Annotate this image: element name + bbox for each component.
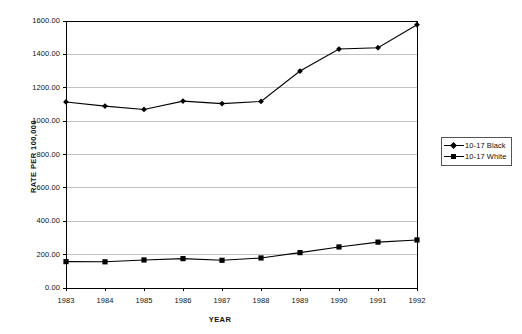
data-point-marker [219,258,224,263]
y-axis-title: RATE PER 100,000 [29,97,38,217]
data-point-marker [102,259,107,264]
data-point-marker [375,240,380,245]
data-series-layer [63,22,420,265]
y-tick-label: 1200.00 [8,83,60,92]
data-point-marker [375,45,381,51]
data-point-marker [414,237,419,242]
data-point-marker [63,259,68,264]
x-tick-label: 1987 [202,296,242,305]
y-tick-label: 200.00 [8,250,60,259]
x-tick-label: 1985 [124,296,164,305]
y-tick-label: 1600.00 [8,16,60,25]
axis-ticks [63,21,417,291]
series-line-2 [66,240,417,262]
x-tick-label: 1983 [46,296,86,305]
data-point-marker [141,107,147,113]
square-marker-icon [444,151,464,162]
x-tick-label: 1991 [358,296,398,305]
series-line-1 [66,25,417,110]
data-point-marker [336,46,342,52]
data-point-marker [414,22,420,28]
data-point-marker [297,250,302,255]
gridlines [66,21,417,288]
legend-label-black: 10-17 Black [464,141,506,150]
plot-area [0,0,522,334]
y-tick-label: 400.00 [8,216,60,225]
x-axis-title: YEAR [0,315,440,324]
data-point-marker [336,244,341,249]
chart-legend: 10-17 Black 10-17 White [441,137,512,166]
y-tick-label: 0.00 [8,283,60,292]
line-chart: 0.00200.00400.00600.00800.001000.001200.… [0,0,522,334]
data-point-marker [102,103,108,109]
legend-label-white: 10-17 White [464,152,507,161]
x-tick-label: 1992 [397,296,437,305]
x-tick-label: 1990 [319,296,359,305]
legend-item-white: 10-17 White [444,151,507,162]
x-tick-label: 1986 [163,296,203,305]
legend-item-black: 10-17 Black [444,140,507,151]
x-tick-label: 1988 [241,296,281,305]
data-point-marker [219,101,225,107]
data-point-marker [141,257,146,262]
data-point-marker [63,99,69,105]
data-point-marker [258,255,263,260]
y-tick-label: 1400.00 [8,49,60,58]
x-tick-label: 1989 [280,296,320,305]
x-tick-label: 1984 [85,296,125,305]
data-point-marker [180,98,186,104]
data-point-marker [180,256,185,261]
diamond-marker-icon [444,140,464,151]
